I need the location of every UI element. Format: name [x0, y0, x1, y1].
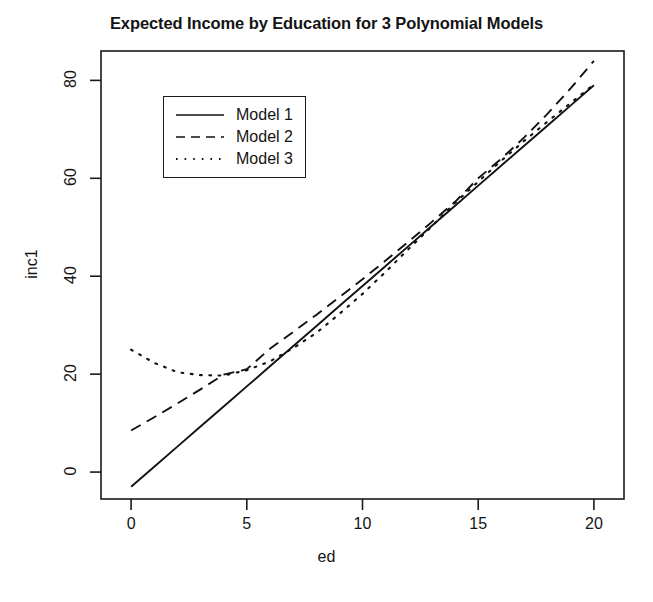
x-axis-ticks — [131, 499, 594, 510]
x-tick-label: 15 — [458, 515, 498, 533]
x-tick-label: 0 — [111, 515, 151, 533]
y-tick-label: 0 — [62, 451, 80, 491]
x-axis-title: ed — [0, 548, 653, 566]
legend-item-label: Model 1 — [236, 106, 293, 124]
legend-item-label: Model 2 — [236, 128, 293, 146]
y-axis-ticks — [90, 80, 101, 472]
y-tick-label: 40 — [62, 255, 80, 295]
x-tick-label: 20 — [574, 515, 614, 533]
chart-figure: Expected Income by Education for 3 Polyn… — [0, 0, 653, 602]
plot-area — [0, 0, 653, 602]
legend-item: Model 3 — [174, 148, 293, 170]
legend-dotted-line-icon — [174, 152, 226, 166]
y-tick-label: 80 — [62, 59, 80, 99]
y-tick-label: 60 — [62, 157, 80, 197]
legend-item: Model 1 — [174, 104, 293, 126]
x-tick-label: 5 — [227, 515, 267, 533]
chart-legend: Model 1 Model 2 Model 3 — [163, 96, 306, 178]
legend-item-label: Model 3 — [236, 150, 293, 168]
legend-item: Model 2 — [174, 126, 293, 148]
y-axis-title: inc1 — [23, 214, 41, 314]
x-tick-label: 10 — [343, 515, 383, 533]
legend-dashed-line-icon — [174, 130, 226, 144]
legend-line-icon — [174, 108, 226, 122]
y-tick-label: 20 — [62, 353, 80, 393]
